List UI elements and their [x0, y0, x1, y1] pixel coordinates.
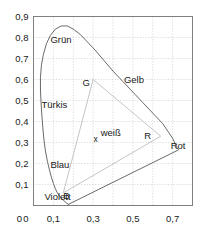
y-tick-label: 0,3 — [15, 137, 28, 148]
x-tick-label: 0,5 — [126, 213, 139, 224]
y-tick-label: 0,5 — [15, 95, 28, 106]
region-label-gruen: Grün — [50, 34, 71, 45]
y-tick-label: 0,9 — [15, 11, 28, 22]
y-tick-label: 0,1 — [15, 179, 28, 190]
white-point-label: weiß — [100, 127, 121, 138]
cie-chromaticity-diagram: xweißGRBGrünTürkisBlauViolettGelbRot00,1… — [0, 0, 202, 234]
x-tick-label: 0,1 — [47, 213, 60, 224]
spectral-locus — [40, 26, 178, 205]
x-tick-label: 0 — [17, 213, 22, 224]
x-tick-label: 0,3 — [87, 213, 100, 224]
region-label-gelb: Gelb — [124, 74, 144, 85]
region-label-violett: Violett — [44, 191, 71, 202]
y-tick-label: 0,2 — [15, 158, 28, 169]
region-label-rot: Rot — [171, 140, 186, 151]
series-group — [40, 26, 178, 205]
y-axis-ticks: 00,10,20,30,40,50,60,70,80,9 — [15, 11, 28, 224]
region-labels: GrünTürkisBlauViolettGelbRot — [41, 34, 185, 201]
region-label-blau: Blau — [50, 159, 69, 170]
region-label-tuerkis: Türkis — [41, 99, 67, 110]
y-tick-label: 0,7 — [15, 53, 28, 64]
vertex-labels: GRB — [63, 77, 151, 201]
green-primary-label: G — [82, 77, 89, 88]
x-tick-label: 0,7 — [166, 213, 179, 224]
white-point-marker: x — [94, 134, 99, 144]
chart-canvas: xweißGRBGrünTürkisBlauViolettGelbRot00,1… — [0, 0, 202, 234]
y-tick-label: 0,4 — [15, 116, 28, 127]
y-tick-label: 0,6 — [15, 74, 28, 85]
x-axis-ticks: 00,10,30,50,7 — [17, 213, 179, 224]
red-primary-label: R — [144, 130, 151, 141]
y-tick-label: 0,8 — [15, 32, 28, 43]
y-tick-label: 0 — [23, 213, 28, 224]
markers-group: xweiß — [94, 127, 121, 144]
